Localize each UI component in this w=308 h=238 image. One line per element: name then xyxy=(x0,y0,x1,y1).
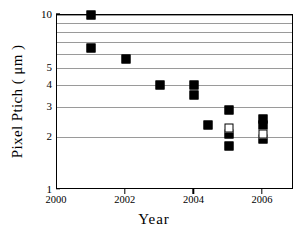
x-axis-tick-labels: 2000200220042006 xyxy=(56,194,293,210)
data-point-filled-square xyxy=(204,121,213,130)
gridline xyxy=(57,23,292,24)
y-tick-label: 4 xyxy=(47,78,53,89)
x-tick-label: 2004 xyxy=(183,194,204,207)
gridline xyxy=(57,32,292,33)
y-tick-label: 2 xyxy=(47,131,53,142)
y-tick-label: 10 xyxy=(41,9,52,20)
x-tick-label: 2000 xyxy=(46,194,67,207)
y-axis-title: Pixel Ptich ( μm ) xyxy=(9,22,26,182)
gridline xyxy=(57,107,292,108)
x-tick-label: 2006 xyxy=(252,194,273,207)
y-tick-label: 1 xyxy=(47,184,53,195)
x-tick-label: 2002 xyxy=(114,194,135,207)
data-point-open-square xyxy=(224,124,233,133)
data-point-filled-square xyxy=(87,11,96,20)
x-axis-title: Year xyxy=(0,211,308,228)
scatter-chart-figure: 1234510 2000200220042006 Year Pixel Ptic… xyxy=(0,0,308,238)
data-point-filled-square xyxy=(156,80,165,89)
gridline xyxy=(57,68,292,69)
data-point-filled-square xyxy=(224,106,233,115)
data-point-filled-square xyxy=(190,80,199,89)
data-point-filled-square xyxy=(190,90,199,99)
data-point-open-square xyxy=(259,129,268,138)
plot-area xyxy=(56,14,293,189)
data-point-filled-square xyxy=(87,43,96,52)
gridline xyxy=(57,54,292,55)
gridline xyxy=(57,137,292,138)
data-point-filled-square xyxy=(224,142,233,151)
data-point-filled-square xyxy=(121,55,130,64)
y-tick-label: 3 xyxy=(47,100,53,111)
gridline xyxy=(57,85,292,86)
y-tick-label: 5 xyxy=(47,61,53,72)
